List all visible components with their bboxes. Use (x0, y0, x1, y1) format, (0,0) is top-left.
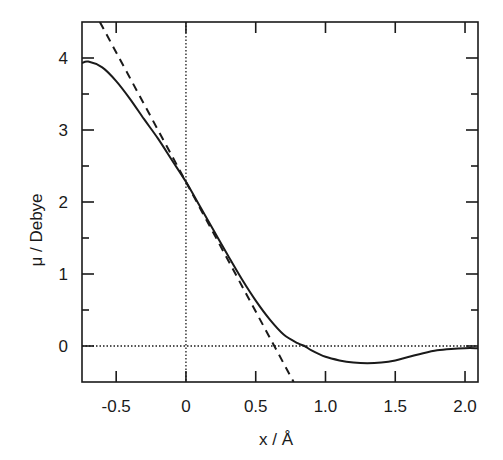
reference-lines (82, 22, 478, 382)
y-tick-label: 2 (59, 193, 68, 212)
x-axis-label: x / Å (259, 430, 294, 449)
x-tick-label: 0.5 (244, 397, 268, 416)
y-tick-label: 0 (59, 337, 68, 356)
y-tick-label: 1 (59, 265, 68, 284)
x-tick-label: 2.0 (453, 397, 477, 416)
y-axis-label: μ / Debye (27, 193, 46, 266)
x-tick-label: -0.5 (102, 397, 131, 416)
x-tick-label: 0 (181, 397, 190, 416)
dipole-curve (82, 61, 478, 363)
y-tick-label: 4 (59, 49, 68, 68)
dipole-chart: -0.500.51.01.52.0 01234 x / Å μ / Debye (0, 0, 503, 460)
data-series (82, 22, 478, 382)
x-tick-labels: -0.500.51.01.52.0 (102, 397, 477, 416)
axis-ticks (82, 22, 478, 382)
x-tick-label: 1.0 (314, 397, 338, 416)
y-tick-labels: 01234 (59, 49, 68, 356)
plot-frame (82, 22, 478, 382)
x-tick-label: 1.5 (383, 397, 407, 416)
y-tick-label: 3 (59, 121, 68, 140)
